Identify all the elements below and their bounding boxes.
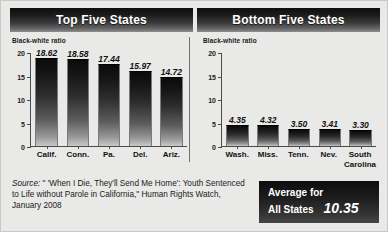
panel-header-bottom-five: Bottom Five States (197, 8, 380, 32)
plot-area-left: 20 15 10 5 0 18.62 18.58 (30, 53, 187, 147)
x-tick (78, 146, 79, 149)
x-tick (299, 146, 300, 149)
x-axis-label: Nev. (314, 150, 345, 169)
bar (226, 125, 248, 146)
bar-slot: 17.44 (93, 53, 124, 146)
bar-slot: 14.72 (156, 53, 187, 146)
average-box-line2: All States 10.35 (268, 200, 379, 218)
x-axis-label: South Carolina (344, 150, 376, 169)
bar-slot: 4.35 (222, 53, 253, 146)
bar (349, 130, 371, 146)
y-tick-label: 10 (208, 97, 216, 104)
x-tick (330, 146, 331, 149)
bar-value-label: 3.30 (352, 120, 369, 130)
average-box-line1: Average for (268, 186, 379, 200)
bar (129, 71, 152, 146)
y-tick-label: 5 (212, 120, 216, 127)
bar-value-label: 3.41 (322, 119, 339, 129)
chart-figure: Top Five States Bottom Five States Black… (0, 0, 388, 232)
x-tick (109, 146, 110, 149)
y-tick-label: 20 (208, 50, 216, 57)
bar-value-label: 14.72 (161, 67, 182, 77)
x-axis-label: Tenn. (283, 150, 314, 169)
source-label: Source: (12, 179, 40, 188)
bar (257, 125, 279, 146)
y-tick-label: 0 (212, 144, 216, 151)
bar-group-left: 18.62 18.58 17.44 15 (31, 53, 187, 146)
y-tick-label: 15 (208, 73, 216, 80)
bar-value-label: 4.35 (229, 115, 246, 125)
panel-divider (189, 37, 190, 162)
bar (98, 64, 121, 146)
x-axis-label: Conn. (62, 150, 93, 160)
x-tick (171, 146, 172, 149)
y-axis-title-right: Black-white ratio (203, 37, 257, 44)
bar-slot: 15.97 (125, 53, 156, 146)
source-text: " 'When I Die, They'll Send Me Home': Yo… (12, 179, 245, 210)
x-tick (237, 146, 238, 149)
x-axis-label: Del. (125, 150, 156, 160)
bar-value-label: 17.44 (98, 54, 119, 64)
chart-panels: Black-white ratio 20 15 10 5 0 18.62 (10, 37, 380, 173)
average-box-label: All States (268, 202, 314, 218)
bar-value-label: 18.62 (36, 48, 57, 58)
x-axis-label: Pa. (93, 150, 124, 160)
bar (319, 129, 341, 146)
x-tick (361, 146, 362, 149)
bar-value-label: 3.50 (291, 119, 308, 129)
x-axis-labels-right: Wash. Miss. Tenn. Nev. South Carolina (222, 150, 376, 169)
y-tick-label: 10 (17, 97, 25, 104)
bar-value-label: 15.97 (130, 61, 151, 71)
x-axis-label: Calif. (31, 150, 62, 160)
bar (35, 58, 58, 146)
bar-slot: 18.58 (62, 53, 93, 146)
bar (67, 59, 90, 146)
x-tick (140, 146, 141, 149)
bar-slot: 4.32 (253, 53, 284, 146)
panel-header-top-five: Top Five States (10, 8, 193, 32)
bar (288, 129, 310, 146)
source-note: Source: " 'When I Die, They'll Send Me H… (12, 178, 252, 212)
x-axis-label: Miss. (253, 150, 284, 169)
y-tick-label: 5 (21, 120, 25, 127)
bar (160, 77, 183, 146)
x-tick (47, 146, 48, 149)
average-box-value: 10.35 (324, 200, 359, 216)
bar-slot: 3.50 (284, 53, 315, 146)
x-axis-label: Wash. (222, 150, 253, 169)
chart-panel-bottom-five: Black-white ratio 20 15 10 5 0 4.35 (189, 37, 380, 173)
bar-slot: 18.62 (31, 53, 62, 146)
x-axis-labels-left: Calif. Conn. Pa. Del. Ariz. (31, 150, 187, 160)
y-tick-label: 20 (17, 50, 25, 57)
x-tick (268, 146, 269, 149)
x-axis-label: Ariz. (156, 150, 187, 160)
average-all-states-box: Average for All States 10.35 (259, 181, 379, 223)
chart-panel-top-five: Black-white ratio 20 15 10 5 0 18.62 (10, 37, 189, 173)
bar-slot: 3.30 (345, 53, 376, 146)
bar-value-label: 18.58 (67, 49, 88, 59)
bar-slot: 3.41 (314, 53, 345, 146)
y-tick-label: 15 (17, 73, 25, 80)
plot-area-right: 20 15 10 5 0 4.35 4.32 (221, 53, 376, 147)
bar-value-label: 4.32 (260, 115, 277, 125)
y-tick-label: 0 (21, 144, 25, 151)
y-axis-title-left: Black-white ratio (12, 37, 66, 44)
panel-headers: Top Five States Bottom Five States (10, 8, 380, 32)
bar-group-right: 4.35 4.32 3.50 3.41 (222, 53, 376, 146)
